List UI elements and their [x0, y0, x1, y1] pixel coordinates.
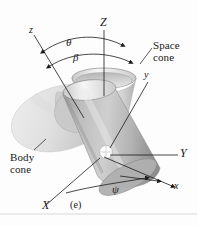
axis-line-X — [46, 158, 100, 205]
axis-label-x: x — [174, 181, 179, 192]
axis-label-Y: Y — [180, 147, 187, 160]
space-cone-body-cone-figure: Z z θ β Space cone y Y x Body cone ψ X (… — [0, 0, 197, 226]
space-cone-label-line1: Space — [153, 40, 180, 52]
axis-label-X: X — [42, 199, 49, 212]
arc-beta — [50, 54, 130, 66]
angle-label-theta: θ — [66, 37, 72, 49]
space-cone-label-line2: cone — [153, 52, 174, 64]
figure-caption: (e) — [70, 200, 81, 211]
angle-label-beta: β — [73, 52, 79, 64]
axis-label-Z: Z — [100, 16, 107, 29]
body-cone-label-line2: cone — [10, 164, 31, 176]
leader-space-cone — [140, 48, 152, 64]
axis-label-y: y — [144, 70, 149, 81]
axis-label-z: z — [29, 25, 33, 36]
angle-label-psi: ψ — [112, 184, 119, 196]
arc-theta — [44, 37, 122, 51]
body-cone-label-line1: Body — [10, 152, 34, 164]
